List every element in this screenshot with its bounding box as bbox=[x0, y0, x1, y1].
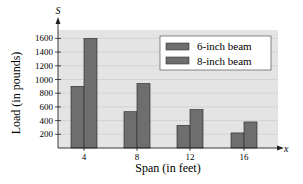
y-axis-title: Load (in pounds) bbox=[9, 52, 23, 135]
y-tick-label: 1400 bbox=[35, 47, 54, 57]
bar-8-inch-span-12 bbox=[190, 110, 203, 148]
bar-6-inch-span-16 bbox=[231, 133, 244, 148]
y-tick-label: 200 bbox=[40, 129, 54, 139]
bar-6-inch-span-12 bbox=[177, 125, 190, 148]
bar-8-inch-span-16 bbox=[244, 122, 257, 148]
y-axis-variable: S bbox=[56, 5, 61, 16]
x-tick-label: 4 bbox=[82, 152, 87, 162]
y-tick-label: 600 bbox=[40, 102, 54, 112]
bar-chart: 2004006008001000120014001600 481216 S x … bbox=[0, 0, 303, 184]
y-axis-arrow-icon bbox=[56, 17, 61, 24]
legend-label-8-inch: 8-inch beam bbox=[197, 55, 252, 67]
legend-swatch-6-inch bbox=[166, 43, 189, 50]
x-axis-title: Span (in feet) bbox=[135, 161, 200, 175]
x-axis-arrow-icon bbox=[277, 146, 284, 151]
bar-6-inch-span-8 bbox=[124, 112, 137, 148]
y-axis-ticks: 2004006008001000120014001600 bbox=[35, 33, 61, 139]
bar-8-inch-span-4 bbox=[84, 38, 97, 148]
y-tick-label: 800 bbox=[40, 88, 54, 98]
x-axis-ticks: 481216 bbox=[82, 148, 249, 162]
x-axis-variable: x bbox=[283, 143, 289, 154]
y-tick-label: 400 bbox=[40, 116, 54, 126]
y-tick-label: 1000 bbox=[35, 75, 54, 85]
legend: 6-inch beam 8-inch beam bbox=[160, 36, 271, 70]
x-tick-label: 16 bbox=[240, 152, 250, 162]
legend-swatch-8-inch bbox=[166, 57, 189, 64]
y-tick-label: 1600 bbox=[35, 33, 54, 43]
bar-6-inch-span-4 bbox=[71, 86, 84, 148]
bar-8-inch-span-8 bbox=[137, 84, 150, 148]
y-tick-label: 1200 bbox=[35, 61, 54, 71]
legend-label-6-inch: 6-inch beam bbox=[197, 40, 252, 52]
